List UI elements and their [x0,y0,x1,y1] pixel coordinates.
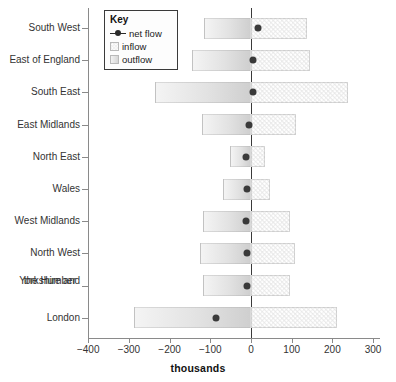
net-flow-marker [243,186,250,193]
legend-item-inflow: inflow [110,40,173,52]
net-flow-marker [244,282,251,289]
x-axis-tick [332,338,333,343]
y-axis-tick [82,286,88,287]
net-flow-marker-icon [110,29,126,37]
category-label-line: East Midlands [4,119,80,130]
category-label-line: Yorkshire and [4,275,80,286]
y-axis-tick [82,189,88,190]
y-axis-tick [82,253,88,254]
bar-inflow [251,307,337,328]
x-axis-tick [292,338,293,343]
net-flow-marker [242,218,249,225]
y-axis-tick [82,221,88,222]
legend: Key net flow inflow outflow [104,10,178,70]
legend-item-outflow: outflow [110,53,173,65]
category-label-line: South East [4,86,80,97]
y-axis-tick [82,318,88,319]
bar-outflow [155,82,251,103]
y-axis-tick [82,157,88,158]
x-axis-tick-label: 300 [351,344,395,355]
bar-inflow [251,82,348,103]
x-axis-tick-label: 0 [229,344,273,355]
x-axis-tick [129,338,130,343]
y-axis-line [88,8,89,338]
x-axis-tick [170,338,171,343]
category-label-line: Wales [4,183,80,194]
y-axis-tick [82,92,88,93]
category-label-line: North West [4,247,80,258]
net-flow-marker [250,57,257,64]
net-flow-marker [244,250,251,257]
category-label-line: North East [4,151,80,162]
net-flow-marker [249,89,256,96]
y-axis-tick [82,28,88,29]
migration-flow-chart: South WestEast of EnglandSouth EastEast … [0,0,396,382]
net-flow-marker [254,25,261,32]
x-axis-tick-label: −300 [107,344,151,355]
bar-inflow [251,211,290,232]
bar-inflow [251,275,290,296]
x-axis-tick [210,338,211,343]
x-axis-tick-label: 100 [270,344,314,355]
y-axis-tick [82,60,88,61]
bar-inflow [251,114,296,135]
net-flow-marker [212,314,219,321]
x-axis-tick-label: 200 [310,344,354,355]
legend-item-label: net flow [129,28,162,39]
category-label-line: West Midlands [4,215,80,226]
x-axis-line [88,338,380,339]
y-axis-category-label: Yorkshire andthe Humber [0,275,80,286]
x-axis-tick-label: −100 [188,344,232,355]
x-axis-tick-label: −400 [66,344,110,355]
x-axis-tick [251,338,252,343]
net-flow-marker [242,153,249,160]
net-flow-marker [245,121,252,128]
outflow-swatch-icon [110,55,119,64]
legend-item-net-flow: net flow [110,27,173,39]
category-label-line: East of England [4,54,80,65]
legend-title: Key [110,14,173,25]
bar-outflow [192,50,251,71]
x-axis-tick-label: −200 [148,344,192,355]
legend-item-label: inflow [122,41,146,52]
x-axis-tick [373,338,374,343]
bar-inflow [251,243,295,264]
bar-inflow [251,50,310,71]
y-axis-tick [82,125,88,126]
category-label-line: London [4,312,80,323]
category-label-line: South West [4,22,80,33]
x-axis-tick [88,338,89,343]
bar-outflow [202,114,251,135]
bar-inflow [251,179,270,200]
inflow-swatch-icon [110,42,119,51]
x-axis-title: thousands [0,362,396,374]
legend-item-label: outflow [122,54,152,65]
bar-inflow [251,146,265,167]
bar-outflow [134,307,251,328]
bar-outflow [204,18,251,39]
